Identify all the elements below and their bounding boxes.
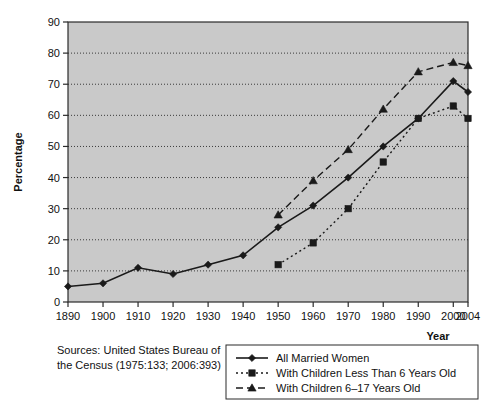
y-axis-tick-labels: 0102030405060708090 bbox=[48, 16, 68, 308]
svg-text:70: 70 bbox=[48, 78, 60, 90]
x-axis-tick-labels: 1890190019101920193019401950196019701980… bbox=[56, 302, 480, 322]
y-axis-title: Percentage bbox=[12, 132, 24, 191]
source-note: Sources: United States Bureau ofthe Cens… bbox=[57, 344, 221, 371]
svg-text:1900: 1900 bbox=[91, 310, 115, 322]
svg-text:90: 90 bbox=[48, 16, 60, 28]
legend-label: With Children Less Than 6 Years Old bbox=[276, 367, 456, 379]
svg-text:10: 10 bbox=[48, 265, 60, 277]
chart-figure: 0102030405060708090 18901900191019201930… bbox=[0, 0, 503, 411]
chart-legend: All Married WomenWith Children Less Than… bbox=[226, 345, 478, 399]
svg-text:2004: 2004 bbox=[456, 310, 480, 322]
svg-text:0: 0 bbox=[54, 296, 60, 308]
source-note-line: Sources: United States Bureau of bbox=[57, 344, 221, 356]
svg-text:20: 20 bbox=[48, 234, 60, 246]
svg-text:1960: 1960 bbox=[301, 310, 325, 322]
legend-label: All Married Women bbox=[276, 352, 369, 364]
svg-text:1990: 1990 bbox=[406, 310, 430, 322]
svg-text:1910: 1910 bbox=[126, 310, 150, 322]
svg-text:1980: 1980 bbox=[371, 310, 395, 322]
svg-text:30: 30 bbox=[48, 203, 60, 215]
svg-text:1940: 1940 bbox=[231, 310, 255, 322]
svg-text:80: 80 bbox=[48, 47, 60, 59]
x-axis-title: Year bbox=[426, 330, 450, 342]
svg-text:40: 40 bbox=[48, 172, 60, 184]
svg-text:1930: 1930 bbox=[196, 310, 220, 322]
line-chart: 0102030405060708090 18901900191019201930… bbox=[0, 0, 503, 411]
source-note-line: the Census (1975:133; 2006:393) bbox=[57, 359, 221, 371]
svg-text:1890: 1890 bbox=[56, 310, 80, 322]
svg-text:1950: 1950 bbox=[266, 310, 290, 322]
plot-background bbox=[68, 22, 468, 302]
svg-text:50: 50 bbox=[48, 140, 60, 152]
legend-label: With Children 6–17 Years Old bbox=[276, 382, 420, 394]
svg-text:60: 60 bbox=[48, 109, 60, 121]
svg-text:1920: 1920 bbox=[161, 310, 185, 322]
svg-text:1970: 1970 bbox=[336, 310, 360, 322]
